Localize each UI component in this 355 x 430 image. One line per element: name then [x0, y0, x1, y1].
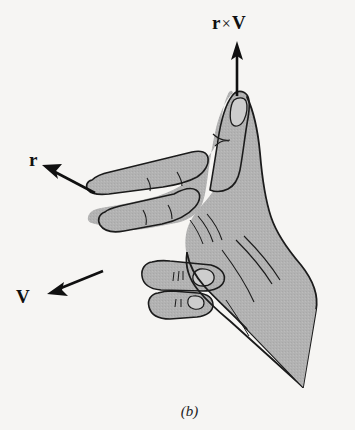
- label-r: r: [29, 150, 38, 169]
- label-v: V: [16, 287, 30, 306]
- label-r-cross-v-left: r: [212, 12, 221, 33]
- label-r-cross-v: r×V: [212, 13, 246, 32]
- label-r-cross-v-right: V: [232, 12, 246, 33]
- figure-caption: (b): [0, 403, 355, 420]
- right-hand-rule-figure: r×V r V (b): [0, 0, 355, 430]
- ring-fingernail: [193, 269, 214, 286]
- hand-illustration: [0, 0, 355, 430]
- cross-product-operator-icon: ×: [221, 15, 232, 32]
- pinky-fingernail: [188, 296, 204, 309]
